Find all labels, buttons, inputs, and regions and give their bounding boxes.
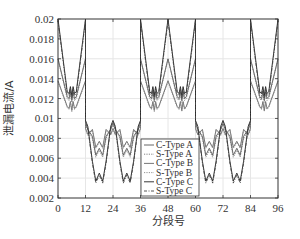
x-tick-label: 24 (108, 202, 120, 214)
y-tick-label: 0.014 (29, 73, 54, 85)
leakage-current-chart: 012243648607284960.0020.0040.0060.0080.0… (0, 0, 300, 239)
y-tick-label: 0.004 (29, 172, 54, 184)
y-tick-label: 0.006 (29, 152, 54, 164)
x-tick-label: 48 (163, 202, 175, 214)
x-tick-label: 60 (190, 202, 202, 214)
x-axis-title: 分段号 (152, 214, 185, 228)
y-tick-label: 0.002 (29, 192, 54, 204)
x-tick-label: 12 (80, 202, 91, 214)
x-tick-label: 96 (273, 202, 285, 214)
y-tick-label: 0.01 (35, 112, 54, 124)
y-tick-label: 0.018 (29, 33, 54, 45)
y-tick-label: 0.016 (29, 53, 54, 65)
legend-label: S-Type C (156, 186, 192, 196)
legend: C-Type AS-Type AC-Type BS-Type BC-Type C… (141, 139, 199, 196)
y-axis-title: 泄漏电流/A (2, 80, 16, 136)
x-tick-label: 84 (245, 202, 257, 214)
x-tick-label: 36 (135, 202, 147, 214)
y-tick-label: 0.02 (35, 13, 54, 25)
y-tick-label: 0.012 (29, 93, 54, 105)
x-tick-label: 0 (55, 202, 61, 214)
x-tick-label: 72 (218, 202, 229, 214)
y-tick-label: 0.008 (29, 132, 54, 144)
